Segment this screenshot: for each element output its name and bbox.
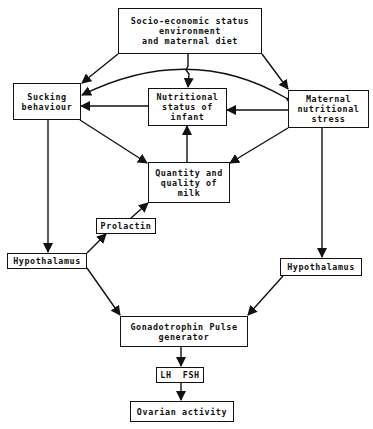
edge-prolactin-milk <box>131 203 148 218</box>
node-maternal-nutritional-stress: Maternal nutritional stress <box>288 90 369 128</box>
node-socio-economic-status: Socio-economic status environment and ma… <box>118 8 262 54</box>
node-ovarian-activity: Ovarian activity <box>130 401 234 422</box>
node-hypothalamus-right: Hypothalamus <box>280 258 362 276</box>
node-sucking-behaviour: Sucking behaviour <box>13 83 81 120</box>
edge-sucking-milk <box>80 120 147 163</box>
node-quantity-quality-milk: Quantity and quality of milk <box>148 162 230 203</box>
node-hypothalamus-left: Hypothalamus <box>7 253 87 269</box>
node-lh-fsh: LH FSH <box>156 367 204 383</box>
diagram-connectors <box>0 0 373 429</box>
node-nutritional-status-infant: Nutritional status of infant <box>148 88 227 126</box>
edge-socio-maternal <box>262 54 288 89</box>
edge-maternal-milk <box>230 128 288 163</box>
edge-hypothalamus-prolactin <box>87 234 106 253</box>
edge-hypothalamus-left-gonado <box>87 268 120 315</box>
edge-socio-sucking <box>82 54 118 83</box>
node-prolactin: Prolactin <box>96 218 156 234</box>
edge-hypothalamus-right-gonado <box>248 276 283 315</box>
node-gonadotrophin-pulse-generator: Gonadotrophin Pulse generator <box>120 316 248 347</box>
edge-socio-infant <box>186 54 189 87</box>
